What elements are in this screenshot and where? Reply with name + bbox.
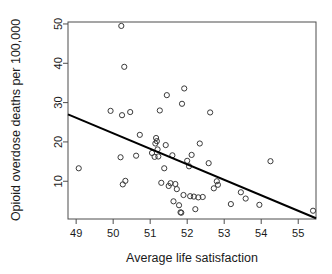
x-tick-label: 55 — [292, 227, 304, 239]
data-point — [171, 199, 176, 204]
data-point — [163, 142, 168, 147]
data-point — [257, 202, 262, 207]
data-point — [164, 93, 169, 98]
scatter-plot-figure: 1020304050 49505152535455 Average life s… — [0, 0, 332, 274]
x-tick-label: 51 — [144, 227, 156, 239]
data-point — [206, 161, 211, 166]
x-axis-tick-labels: 49505152535455 — [70, 227, 304, 239]
data-point — [174, 187, 179, 192]
plot-canvas: 1020304050 49505152535455 Average life s… — [0, 0, 332, 274]
y-tick-label: 50 — [52, 18, 64, 30]
data-point — [120, 182, 125, 187]
data-point — [137, 132, 142, 137]
data-point — [119, 23, 124, 28]
data-point — [76, 166, 81, 171]
data-point — [134, 153, 139, 158]
data-point — [268, 159, 273, 164]
x-axis-title: Average life satisfaction — [126, 251, 258, 265]
data-point — [108, 108, 113, 113]
data-point-group — [76, 23, 316, 215]
data-point — [118, 155, 123, 160]
data-point — [179, 101, 184, 106]
y-axis-title: Opioid overdose deaths per 100,000 — [9, 19, 23, 221]
data-point — [238, 190, 243, 195]
data-point — [310, 208, 315, 213]
x-axis-ticks — [76, 219, 298, 224]
y-tick-label: 10 — [52, 175, 64, 187]
x-tick-label: 52 — [181, 227, 193, 239]
y-axis-tick-labels: 1020304050 — [52, 18, 64, 188]
y-tick-label: 40 — [52, 57, 64, 69]
data-point — [197, 141, 202, 146]
data-point — [243, 196, 248, 201]
data-point — [208, 110, 213, 115]
data-point — [156, 154, 161, 159]
x-tick-label: 49 — [70, 227, 82, 239]
data-point — [189, 152, 194, 157]
data-point — [214, 179, 219, 184]
data-point — [215, 182, 220, 187]
data-point — [162, 166, 167, 171]
data-point — [123, 178, 128, 183]
data-point — [228, 201, 233, 206]
y-tick-label: 30 — [52, 96, 64, 108]
data-point — [176, 203, 181, 208]
data-point — [157, 108, 162, 113]
data-point — [159, 180, 164, 185]
x-tick-label: 54 — [255, 227, 267, 239]
regression-line — [68, 114, 316, 218]
regression-line-segment — [68, 114, 316, 218]
x-tick-label: 50 — [107, 227, 119, 239]
plot-frame — [68, 22, 316, 219]
data-point — [181, 192, 186, 197]
y-tick-label: 20 — [52, 136, 64, 148]
data-point — [193, 207, 198, 212]
data-point — [182, 86, 187, 91]
x-tick-label: 53 — [218, 227, 230, 239]
data-point — [128, 109, 133, 114]
data-point — [119, 113, 124, 118]
data-point — [122, 64, 127, 69]
